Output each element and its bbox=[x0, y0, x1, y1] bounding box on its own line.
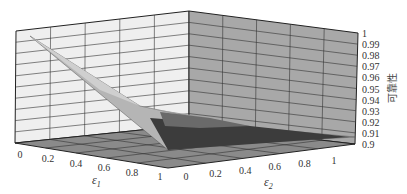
tick-label: 0.2 bbox=[209, 168, 222, 179]
z-axis-ticks: 0.90.910.920.930.940.950.960.970.980.991 bbox=[362, 28, 380, 150]
tick-label: 0.95 bbox=[362, 84, 380, 95]
tick-label: 0.8 bbox=[298, 158, 311, 169]
tick-label: 0.93 bbox=[362, 106, 380, 117]
tick-label: 0.4 bbox=[239, 165, 252, 176]
tick-label: 0.4 bbox=[70, 158, 83, 169]
tick-label: 0.2 bbox=[42, 153, 55, 164]
tick-label: 0.91 bbox=[362, 128, 380, 139]
tick-label: 0.96 bbox=[362, 72, 380, 83]
x-axis-label: ε1 bbox=[92, 173, 101, 189]
tick-label: 1 bbox=[332, 155, 337, 166]
tick-label: 0.99 bbox=[362, 39, 380, 50]
z-axis-label: 可靠性 bbox=[386, 73, 398, 103]
tick-label: 0.97 bbox=[362, 61, 380, 72]
tick-label: 0.9 bbox=[362, 139, 375, 150]
y-axis-label: ε2 bbox=[264, 175, 273, 191]
tick-label: 0.6 bbox=[269, 161, 282, 172]
tick-label: 1 bbox=[158, 171, 163, 182]
tick-label: 0.98 bbox=[362, 50, 380, 61]
tick-label: 0 bbox=[184, 171, 189, 182]
tick-label: 0 bbox=[18, 149, 23, 160]
tick-label: 0.6 bbox=[98, 162, 111, 173]
tick-label: 0.8 bbox=[126, 167, 139, 178]
tick-label: 0.92 bbox=[362, 117, 380, 128]
tick-label: 0.94 bbox=[362, 95, 380, 106]
tick-label: 1 bbox=[362, 28, 367, 39]
surface-plot: 00.20.40.60.81 00.20.40.60.81 0.90.910.9… bbox=[0, 0, 407, 194]
